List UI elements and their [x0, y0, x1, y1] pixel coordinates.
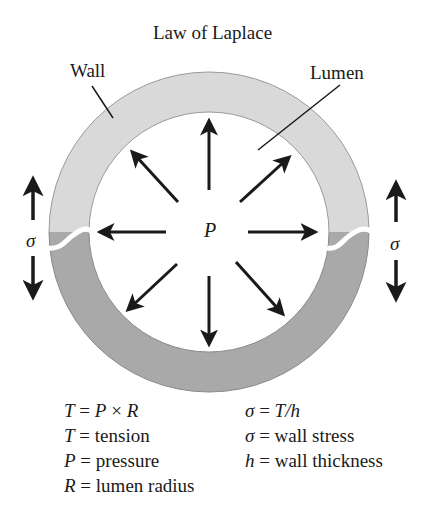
equation-thickness-def: h = wall thickness	[245, 448, 383, 473]
equation-tension-def: T = tension	[64, 423, 195, 448]
equation-stress-def: σ = wall stress	[245, 423, 383, 448]
arrow-up-right-icon	[240, 160, 286, 202]
equations-right: σ = T/h σ = wall stress h = wall thickne…	[245, 398, 383, 473]
stress-symbol-right: σ	[390, 233, 399, 255]
arrow-down-left-icon	[131, 264, 177, 307]
equation-radius-def: R = lumen radius	[64, 473, 195, 498]
pressure-symbol: P	[204, 219, 216, 242]
equation-stress-formula: σ = T/h	[245, 398, 383, 423]
equation-tension-formula: T = P × R	[64, 398, 195, 423]
equation-pressure-def: P = pressure	[64, 448, 195, 473]
equations-left: T = P × R T = tension P = pressure R = l…	[64, 398, 195, 498]
arrow-up-left-icon	[135, 155, 178, 202]
stress-symbol-left: σ	[26, 230, 35, 252]
arrow-down-right-icon	[236, 262, 280, 311]
